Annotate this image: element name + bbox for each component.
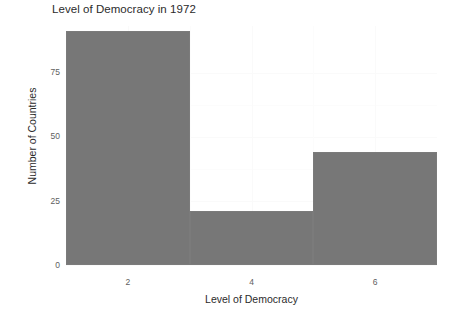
y-axis-title: Number of Countries [26, 56, 38, 216]
democracy-histogram-chart: Level of Democracy in 1972 0 25 50 75 2 … [0, 0, 464, 315]
x-tick-label-6: 6 [355, 278, 395, 287]
bar-level-6 [313, 152, 437, 265]
x-axis-tick-labels: 2 4 6 [66, 278, 437, 290]
plot-area [66, 26, 437, 265]
y-axis-title-container: Number of Countries [14, 26, 26, 265]
bar-level-2 [66, 31, 190, 265]
chart-title: Level of Democracy in 1972 [52, 3, 196, 15]
x-tick-label-4: 4 [232, 278, 272, 287]
y-tick-label-0: 0 [26, 261, 60, 270]
x-axis-title: Level of Democracy [66, 293, 437, 305]
bar-level-4 [190, 211, 314, 265]
x-tick-label-2: 2 [108, 278, 148, 287]
